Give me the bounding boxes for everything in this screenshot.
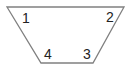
corner-label-2: 2 [106, 9, 114, 25]
corner-label-3: 3 [83, 46, 91, 62]
corner-label-1: 1 [22, 10, 30, 26]
corner-label-4: 4 [44, 46, 52, 62]
trapezoid-diagram: 1 2 3 4 [0, 0, 129, 68]
